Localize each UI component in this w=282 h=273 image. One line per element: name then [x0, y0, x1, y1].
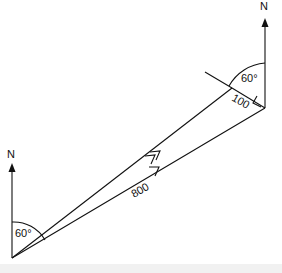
- single-arrow: [149, 167, 159, 176]
- angle-label-top: 60°: [241, 72, 258, 84]
- north-label-top: N: [260, 0, 268, 12]
- double-arrow-2: [145, 155, 155, 164]
- side-800-label: 800: [129, 180, 151, 200]
- extension-line: [205, 72, 232, 88]
- north-arrowhead-bottom: [9, 163, 16, 172]
- north-arrowhead-top: [262, 18, 269, 27]
- side-upper: [12, 88, 232, 258]
- north-label-bottom: N: [7, 148, 15, 160]
- angle-label-bottom: 60°: [15, 227, 32, 239]
- bearing-diagram: N N 60° 60° 800 100: [0, 0, 282, 273]
- side-100-label: 100: [230, 91, 252, 111]
